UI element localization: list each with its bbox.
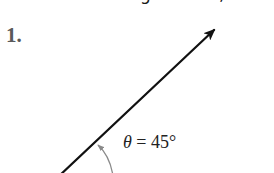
angle-value: 45° [151, 132, 176, 152]
theta-symbol: θ [123, 132, 132, 152]
equals-sign: = [136, 132, 146, 152]
angle-label: θ = 45° [123, 131, 176, 153]
angle-arc-icon [98, 145, 113, 173]
